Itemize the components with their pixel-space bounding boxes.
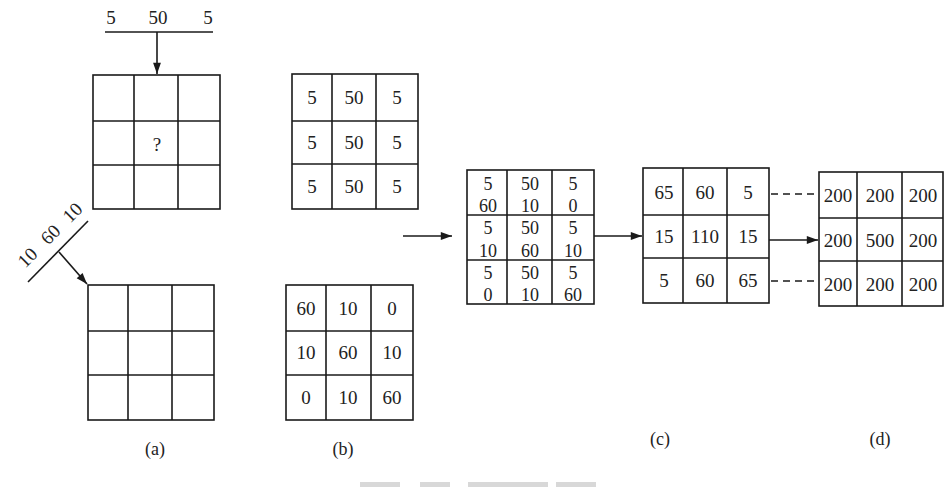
cell-value-top: 5 — [569, 174, 578, 194]
grid-c-sum: 65 60 5 15 110 15 5 60 65 — [643, 168, 769, 303]
cell-value: 200 — [824, 230, 853, 251]
panel-label: (d) — [870, 429, 891, 450]
cell-value: 60 — [696, 182, 715, 203]
cell-value: 5 — [659, 270, 669, 291]
diagonal-arrow-icon — [59, 252, 87, 284]
kernel-value: 50 — [149, 7, 168, 28]
cell-value: 200 — [909, 274, 938, 295]
cell-value-top: 5 — [484, 263, 493, 283]
cell-value-bottom: 10 — [564, 241, 582, 261]
cell-value: 50 — [345, 87, 364, 108]
cell-value-bottom: 60 — [521, 241, 539, 261]
cell-value: 10 — [339, 298, 358, 319]
cell-value-top: 5 — [484, 218, 493, 238]
cell-value: 200 — [866, 185, 895, 206]
cell-value-top: 50 — [521, 174, 539, 194]
panel-b: 5 50 5 5 50 5 5 50 5 60 10 0 10 60 10 0 … — [286, 74, 418, 460]
kernel-value: 5 — [106, 7, 116, 28]
cell-value: 5 — [743, 182, 753, 203]
diagonal-kernel: 10 60 10 — [13, 198, 88, 284]
cropped-caption — [360, 482, 596, 487]
panel-d: 200 200 200 200 500 200 200 200 200 (d) — [819, 172, 943, 450]
cell-value: 5 — [392, 176, 402, 197]
cell-value: 10 — [383, 342, 402, 363]
cell-value: 5 — [307, 132, 317, 153]
kernel-value: 10 — [58, 198, 86, 226]
cell-value: 200 — [866, 274, 895, 295]
panel-a: 5 50 5 ? 10 60 10 — [13, 7, 220, 460]
panel-label: (c) — [650, 429, 670, 450]
cell-value-bottom: 60 — [564, 285, 582, 305]
cell-value: 200 — [909, 230, 938, 251]
kernel-value: 10 — [13, 243, 41, 271]
cell-value: 60 — [696, 270, 715, 291]
cell-value: 60 — [339, 342, 358, 363]
cell-value: 200 — [909, 185, 938, 206]
kernel-value: 60 — [36, 220, 64, 248]
cell-value: 500 — [866, 230, 895, 251]
grid-a-bottom — [88, 285, 214, 420]
grid-a-top: ? — [93, 75, 220, 209]
cell-value-bottom: 10 — [479, 241, 497, 261]
kernel-value: 5 — [203, 7, 213, 28]
cell-value: 15 — [655, 226, 674, 247]
cell-value-top: 5 — [484, 174, 493, 194]
cell-value-top: 50 — [521, 218, 539, 238]
panel-label: (a) — [145, 439, 165, 460]
cell-value: 15 — [739, 226, 758, 247]
cell-value-top: 5 — [569, 263, 578, 283]
cell-value-bottom: 10 — [521, 196, 539, 216]
cell-value: 200 — [824, 274, 853, 295]
grid-b-bottom: 60 10 0 10 60 10 0 10 60 — [286, 285, 413, 420]
cell-value-top: 50 — [521, 263, 539, 283]
cell-value-bottom: 10 — [521, 285, 539, 305]
cell-value: 5 — [392, 87, 402, 108]
cell-value-top: 5 — [569, 218, 578, 238]
cell-value: 200 — [824, 185, 853, 206]
cell-value: 10 — [339, 387, 358, 408]
top-kernel: 5 50 5 — [105, 7, 213, 74]
panel-c: 5 60 50 10 5 0 5 10 50 60 5 10 5 0 50 10… — [467, 168, 769, 450]
cell-value: 65 — [655, 182, 674, 203]
grid-d: 200 200 200 200 500 200 200 200 200 — [819, 172, 943, 306]
grid-c-stacked: 5 60 50 10 5 0 5 10 50 60 5 10 5 0 50 10… — [467, 170, 594, 305]
cell-value: 50 — [345, 132, 364, 153]
grid-b-top: 5 50 5 5 50 5 5 50 5 — [292, 74, 418, 209]
cell-value: 110 — [691, 226, 719, 247]
panel-label: (b) — [333, 439, 354, 460]
cell-value: 5 — [392, 132, 402, 153]
grid-border — [88, 285, 214, 420]
cell-value-bottom: 60 — [479, 196, 497, 216]
cell-value: 60 — [297, 298, 316, 319]
cell-value: 10 — [297, 342, 316, 363]
unknown-mark: ? — [153, 134, 161, 155]
cell-value: 5 — [307, 87, 317, 108]
cell-value: 60 — [383, 387, 402, 408]
cell-value: 50 — [345, 176, 364, 197]
cell-value: 0 — [387, 298, 397, 319]
cell-value: 65 — [739, 270, 758, 291]
cell-value: 5 — [307, 176, 317, 197]
cell-value-bottom: 0 — [484, 285, 493, 305]
convolution-diagram: 5 50 5 ? 10 60 10 — [0, 0, 950, 487]
cell-value: 0 — [301, 387, 311, 408]
cell-value-bottom: 0 — [569, 196, 578, 216]
